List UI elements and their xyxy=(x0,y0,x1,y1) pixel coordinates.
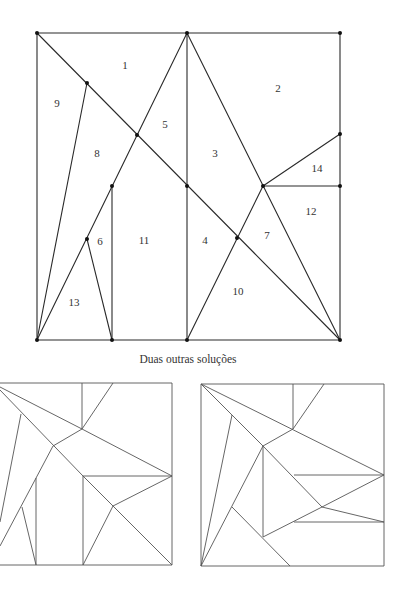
cut-line xyxy=(82,383,113,429)
vertex-dot xyxy=(185,184,189,188)
cut-line xyxy=(53,429,82,446)
cut-line xyxy=(0,446,53,546)
vertex-dot xyxy=(338,31,342,35)
piece-label-9: 9 xyxy=(54,97,60,109)
cut-line xyxy=(187,186,263,340)
figure-caption: Duas outras soluções xyxy=(0,353,376,365)
piece-label-2: 2 xyxy=(275,82,281,94)
tangram-diagram-canvas: 1234567891011121314 xyxy=(0,0,409,590)
cut-line xyxy=(83,476,172,565)
cut-line xyxy=(0,387,82,429)
cut-line xyxy=(22,507,36,565)
cut-line xyxy=(0,390,83,476)
vertex-dot xyxy=(185,338,189,342)
alternative-solution-left xyxy=(0,383,172,565)
vertex-dot xyxy=(35,338,39,342)
vertex-dot xyxy=(35,31,39,35)
piece-label-8: 8 xyxy=(94,147,100,159)
vertex-dot xyxy=(261,184,265,188)
piece-label-11: 11 xyxy=(139,234,150,246)
main-dissection-figure: 1234567891011121314 xyxy=(35,31,342,342)
vertex-dot xyxy=(338,338,342,342)
cut-line xyxy=(232,507,290,566)
piece-label-14: 14 xyxy=(312,162,324,174)
piece-label-1: 1 xyxy=(122,59,128,71)
piece-label-12: 12 xyxy=(306,205,317,217)
cut-line xyxy=(113,476,172,506)
cut-line xyxy=(0,414,21,522)
piece-label-7: 7 xyxy=(264,229,270,241)
piece-label-4: 4 xyxy=(202,234,208,246)
vertex-dot xyxy=(85,237,89,241)
vertex-dot xyxy=(135,133,139,137)
vertex-dot xyxy=(338,132,342,136)
cut-line xyxy=(82,429,172,476)
vertex-dot xyxy=(110,184,114,188)
piece-label-3: 3 xyxy=(212,147,218,159)
cut-line xyxy=(37,83,87,340)
cut-line xyxy=(263,429,293,446)
cut-line xyxy=(201,446,263,566)
vertex-dot xyxy=(235,236,239,240)
cut-line xyxy=(201,415,232,566)
piece-label-5: 5 xyxy=(162,118,168,130)
cut-line xyxy=(263,446,322,507)
vertex-dot xyxy=(110,338,114,342)
cut-line xyxy=(293,384,324,429)
cut-line xyxy=(322,507,384,522)
piece-label-10: 10 xyxy=(233,285,245,297)
vertex-dot xyxy=(85,81,89,85)
cut-line xyxy=(83,506,113,565)
cut-line xyxy=(322,475,384,507)
cut-line xyxy=(87,239,112,340)
alternative-solution-right xyxy=(201,384,384,566)
piece-label-6: 6 xyxy=(97,235,103,247)
piece-label-13: 13 xyxy=(69,296,81,308)
vertex-dot xyxy=(338,184,342,188)
cut-line xyxy=(263,134,340,186)
vertex-dot xyxy=(185,31,189,35)
